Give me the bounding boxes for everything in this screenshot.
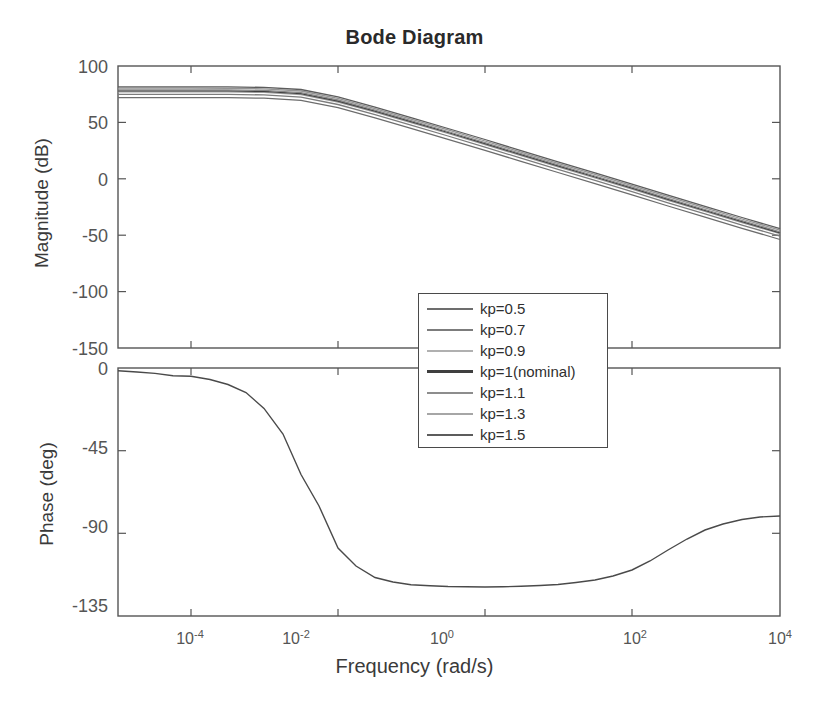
legend-label: kp=1.3 xyxy=(480,406,525,421)
legend-swatch-icon xyxy=(427,350,473,352)
legend-label: kp=1(nominal) xyxy=(480,364,575,379)
legend-label: kp=0.7 xyxy=(480,322,525,337)
legend-label: kp=0.9 xyxy=(480,343,525,358)
legend-swatch-icon xyxy=(427,413,473,415)
magnitude-curve-kp-1-5 xyxy=(118,87,780,229)
legend-swatch-icon xyxy=(427,392,473,394)
magnitude-curve-kp-0-5 xyxy=(118,98,780,240)
magnitude-curve-kp-0-7 xyxy=(118,94,780,236)
magnitude-curve-kp-0-9 xyxy=(118,92,780,234)
legend-swatch-icon xyxy=(427,370,473,372)
legend: kp=0.5 kp=0.7 kp=0.9 kp=1(nominal) kp=1.… xyxy=(418,293,608,448)
phase-y-ticks xyxy=(118,451,780,534)
bode-figure: Bode Diagram Magnitude (dB) Phase (deg) … xyxy=(0,0,829,715)
plot-canvas xyxy=(0,0,829,715)
legend-item: kp=1.3 xyxy=(419,403,607,424)
legend-item: kp=0.9 xyxy=(419,340,607,361)
legend-label: kp=1.5 xyxy=(480,427,525,442)
legend-swatch-icon xyxy=(427,308,473,310)
legend-label: kp=0.5 xyxy=(480,301,525,316)
legend-item: kp=0.5 xyxy=(419,298,607,319)
legend-item: kp=1.1 xyxy=(419,382,607,403)
magnitude-curve-kp-1-nominal xyxy=(118,91,780,233)
legend-swatch-icon xyxy=(427,434,473,436)
magnitude-curve-kp-1-3 xyxy=(118,88,780,230)
legend-item: kp=0.7 xyxy=(419,319,607,340)
legend-swatch-icon xyxy=(427,329,473,331)
legend-item: kp=1.5 xyxy=(419,424,607,445)
legend-label: kp=1.1 xyxy=(480,385,525,400)
magnitude-curves xyxy=(118,87,780,240)
legend-item: kp=1(nominal) xyxy=(419,361,607,382)
